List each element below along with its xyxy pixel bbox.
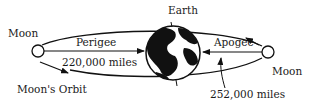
orbit-label: Moon's Orbit <box>17 83 87 95</box>
moon-right-label: Moon <box>272 65 302 77</box>
apogee-distance-pointer <box>221 58 225 88</box>
apogee-label: Apogee <box>213 36 254 48</box>
moon-left-label: Moon <box>8 27 38 39</box>
perigee-distance-label: 220,000 miles <box>62 56 137 68</box>
earth-label: Earth <box>168 4 198 16</box>
apogee-distance-label: 252,000 miles <box>210 88 285 100</box>
moon-left-icon <box>32 45 44 57</box>
moon-orbit-diagram: Moon Perigee 220,000 miles Moon's Orbit … <box>0 0 312 107</box>
moon-right-icon <box>262 46 274 58</box>
perigee-label: Perigee <box>76 36 116 48</box>
